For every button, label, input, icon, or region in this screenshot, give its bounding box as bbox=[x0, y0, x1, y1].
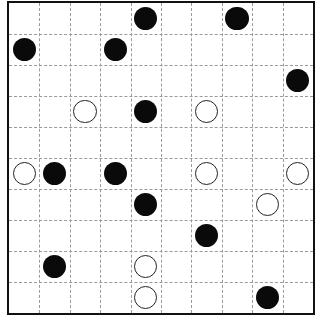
grid-cell[interactable] bbox=[70, 127, 100, 158]
grid-cell[interactable] bbox=[191, 189, 221, 220]
grid-cell[interactable] bbox=[39, 3, 69, 34]
grid-cell[interactable] bbox=[222, 127, 252, 158]
grid-cell[interactable] bbox=[9, 251, 39, 282]
grid-cell[interactable] bbox=[283, 220, 313, 251]
grid-cell[interactable] bbox=[283, 189, 313, 220]
grid-cell[interactable] bbox=[283, 3, 313, 34]
grid-cell[interactable] bbox=[161, 127, 191, 158]
grid-cell[interactable] bbox=[252, 220, 282, 251]
grid-cell[interactable] bbox=[161, 65, 191, 96]
grid-cell[interactable] bbox=[252, 3, 282, 34]
grid-cell[interactable] bbox=[100, 282, 130, 313]
grid-cell[interactable] bbox=[222, 282, 252, 313]
grid-cell[interactable] bbox=[191, 65, 221, 96]
grid-cell[interactable] bbox=[70, 34, 100, 65]
white-circle-icon bbox=[195, 100, 218, 123]
grid-cell[interactable] bbox=[131, 65, 161, 96]
grid-cell[interactable] bbox=[161, 251, 191, 282]
grid-cell[interactable] bbox=[39, 34, 69, 65]
grid-cell[interactable] bbox=[161, 282, 191, 313]
grid-cell[interactable] bbox=[70, 158, 100, 189]
grid-cell[interactable] bbox=[70, 3, 100, 34]
black-circle-icon bbox=[195, 224, 218, 247]
black-circle-icon bbox=[43, 162, 66, 185]
black-circle-icon bbox=[43, 255, 66, 278]
grid-cell[interactable] bbox=[191, 282, 221, 313]
grid-cell[interactable] bbox=[222, 189, 252, 220]
grid-cell[interactable] bbox=[222, 96, 252, 127]
grid-cell[interactable] bbox=[191, 127, 221, 158]
grid-cell[interactable] bbox=[39, 189, 69, 220]
grid-cell[interactable] bbox=[39, 65, 69, 96]
grid-cell[interactable] bbox=[9, 189, 39, 220]
grid-cell[interactable] bbox=[161, 96, 191, 127]
black-circle-icon bbox=[225, 7, 248, 30]
grid-cell[interactable] bbox=[222, 34, 252, 65]
grid-cell[interactable] bbox=[39, 282, 69, 313]
grid-cell[interactable] bbox=[100, 3, 130, 34]
grid-cell[interactable] bbox=[222, 220, 252, 251]
puzzle-board bbox=[7, 1, 315, 315]
grid-cell[interactable] bbox=[39, 96, 69, 127]
grid-cell[interactable] bbox=[283, 251, 313, 282]
grid-cell[interactable] bbox=[252, 65, 282, 96]
grid-cell[interactable] bbox=[252, 127, 282, 158]
grid-cell[interactable] bbox=[70, 220, 100, 251]
grid-cell[interactable] bbox=[222, 251, 252, 282]
grid-cell[interactable] bbox=[161, 3, 191, 34]
black-circle-icon bbox=[104, 38, 127, 61]
grid-cell[interactable] bbox=[283, 96, 313, 127]
grid-cell[interactable] bbox=[161, 158, 191, 189]
grid-cell[interactable] bbox=[161, 220, 191, 251]
grid-cell[interactable] bbox=[283, 34, 313, 65]
grid-cell[interactable] bbox=[131, 220, 161, 251]
grid-cell[interactable] bbox=[191, 34, 221, 65]
grid-cell[interactable] bbox=[9, 282, 39, 313]
grid-cell[interactable] bbox=[252, 96, 282, 127]
grid-cell[interactable] bbox=[131, 34, 161, 65]
grid-cell[interactable] bbox=[191, 251, 221, 282]
grid-cell[interactable] bbox=[39, 127, 69, 158]
black-circle-icon bbox=[13, 38, 36, 61]
grid-cell[interactable] bbox=[70, 251, 100, 282]
grid-cell[interactable] bbox=[70, 189, 100, 220]
grid-cell[interactable] bbox=[100, 220, 130, 251]
grid-cell[interactable] bbox=[252, 251, 282, 282]
grid-cell[interactable] bbox=[161, 189, 191, 220]
grid-cell[interactable] bbox=[39, 220, 69, 251]
grid-cell[interactable] bbox=[252, 34, 282, 65]
grid-cell[interactable] bbox=[131, 127, 161, 158]
grid-cell[interactable] bbox=[100, 96, 130, 127]
grid-cell[interactable] bbox=[191, 3, 221, 34]
white-circle-icon bbox=[256, 193, 279, 216]
white-circle-icon bbox=[13, 162, 36, 185]
black-circle-icon bbox=[104, 162, 127, 185]
grid-cell[interactable] bbox=[70, 65, 100, 96]
grid-cell[interactable] bbox=[283, 127, 313, 158]
grid-cell[interactable] bbox=[131, 158, 161, 189]
grid-cell[interactable] bbox=[100, 251, 130, 282]
grid-cell[interactable] bbox=[283, 282, 313, 313]
grid-cell[interactable] bbox=[100, 65, 130, 96]
grid-cell[interactable] bbox=[222, 65, 252, 96]
grid-cell[interactable] bbox=[161, 34, 191, 65]
black-circle-icon bbox=[256, 286, 279, 309]
grid-cell[interactable] bbox=[9, 96, 39, 127]
grid-cell[interactable] bbox=[9, 3, 39, 34]
grid-cell[interactable] bbox=[9, 127, 39, 158]
grid-cell[interactable] bbox=[9, 220, 39, 251]
grid-cell[interactable] bbox=[9, 65, 39, 96]
grid-cell[interactable] bbox=[252, 158, 282, 189]
grid-cell[interactable] bbox=[222, 158, 252, 189]
white-circle-icon bbox=[73, 100, 96, 123]
white-circle-icon bbox=[195, 162, 218, 185]
grid-cell[interactable] bbox=[70, 282, 100, 313]
grid-cell[interactable] bbox=[100, 127, 130, 158]
grid-cell[interactable] bbox=[100, 189, 130, 220]
